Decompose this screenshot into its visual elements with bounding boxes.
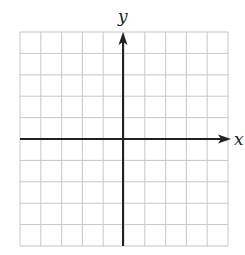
- x-axis-label: x: [234, 129, 244, 149]
- y-axis-label: y: [117, 6, 128, 26]
- coordinate-plane: x y: [0, 0, 245, 255]
